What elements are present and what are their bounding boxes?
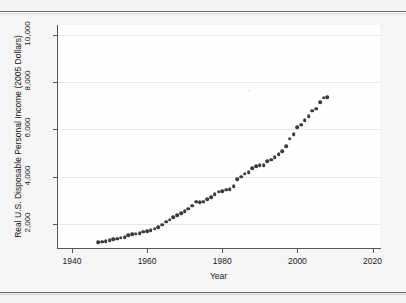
data-point — [318, 101, 322, 105]
data-point — [273, 155, 277, 159]
y-axis-tick — [53, 224, 58, 225]
chart-canvas: Real U.S. Disposable Personal Income (20… — [0, 14, 406, 291]
y-axis-tick — [53, 129, 58, 130]
gridline — [57, 177, 380, 178]
bottom-horizontal-rule-shadow — [0, 294, 406, 295]
top-horizontal-rule — [0, 11, 406, 12]
y-axis-line — [57, 25, 58, 249]
data-point — [209, 195, 213, 199]
data-point — [157, 226, 161, 230]
gridline — [57, 129, 380, 130]
x-axis-tick-label: 1940 — [63, 256, 82, 266]
x-axis-title: Year — [57, 271, 380, 281]
x-axis-tick-label: 2020 — [363, 256, 382, 266]
gridline — [57, 224, 380, 225]
data-point — [247, 170, 251, 174]
figure-container: Real U.S. Disposable Personal Income (20… — [0, 0, 406, 303]
y-axis-tick-label: 6,000 — [23, 113, 32, 143]
data-point — [235, 178, 239, 182]
data-point — [187, 207, 191, 211]
y-axis-tick — [53, 177, 58, 178]
x-axis-tick — [373, 249, 374, 253]
data-point — [281, 149, 285, 153]
data-point — [307, 114, 311, 118]
data-point — [232, 185, 236, 189]
data-point — [190, 204, 194, 208]
data-point — [288, 137, 292, 141]
y-axis-tick — [53, 35, 58, 36]
x-axis-tick — [222, 249, 223, 253]
x-axis-tick-label: 2000 — [288, 256, 307, 266]
scan-artifact-band — [0, 14, 406, 16]
y-axis-tick-label: 2,000 — [23, 208, 32, 238]
x-axis-tick-label: 1980 — [213, 256, 232, 266]
data-point — [239, 175, 243, 179]
x-axis-line — [57, 248, 381, 249]
gridline — [57, 35, 380, 36]
data-point — [262, 163, 266, 167]
data-point — [314, 107, 318, 111]
gridline — [57, 82, 380, 83]
plot-area — [57, 25, 380, 248]
x-axis-tick — [147, 249, 148, 253]
data-point — [326, 96, 330, 100]
y-axis-tick-label: 8,000 — [23, 65, 32, 95]
data-point — [299, 123, 303, 127]
x-axis-tick-label: 1960 — [138, 256, 157, 266]
x-axis-tick — [72, 249, 73, 253]
bottom-horizontal-rule — [0, 292, 406, 293]
data-point — [303, 119, 307, 123]
x-axis-tick — [297, 249, 298, 253]
y-axis-tick — [53, 82, 58, 83]
y-axis-tick-label: 4,000 — [23, 160, 32, 190]
scan-speck — [248, 89, 251, 92]
data-point — [292, 132, 296, 136]
y-axis-tick-label: 10,000 — [23, 18, 32, 48]
data-point — [228, 188, 232, 192]
data-point — [277, 152, 281, 156]
data-point — [284, 145, 288, 149]
